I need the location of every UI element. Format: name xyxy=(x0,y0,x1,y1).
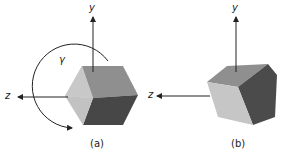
y-axis-label-b: y xyxy=(232,2,238,13)
caption-a: (a) xyxy=(90,138,104,149)
y-axis-label-a: y xyxy=(89,2,95,13)
z-axis-label-a: z xyxy=(5,90,10,101)
gamma-label: γ xyxy=(59,54,65,65)
caption-b: (b) xyxy=(231,138,245,149)
figure-graphics xyxy=(0,0,282,156)
cube-a xyxy=(65,66,138,125)
cube-b xyxy=(207,64,277,125)
rotation-figure: y z γ (a) y z (b) xyxy=(0,0,282,156)
z-axis-label-b: z xyxy=(148,89,153,100)
